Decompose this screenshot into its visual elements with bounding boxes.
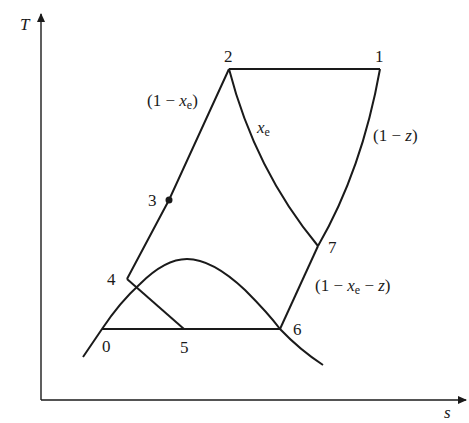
point-label-7: 7 (328, 238, 337, 257)
annotation-left-branch: (1 − xe) (147, 91, 198, 112)
annotation-middle-curve: xe (256, 118, 270, 139)
point-label-0: 0 (102, 337, 111, 356)
curve-2-7 (229, 69, 318, 246)
point-3-dot (166, 197, 173, 204)
t-axis-label: T (20, 15, 31, 34)
line-4-5 (127, 279, 184, 329)
point-label-5: 5 (180, 338, 189, 357)
point-label-3: 3 (148, 191, 157, 210)
point-label-2: 2 (224, 47, 233, 66)
point-label-6: 6 (293, 320, 302, 339)
line-7-6 (280, 246, 318, 329)
point-label-4: 4 (107, 270, 116, 289)
annotation-right-branch: (1 − z) (373, 126, 418, 145)
s-axis-label: s (444, 403, 451, 422)
ts-diagram: T s 2 1 3 4 0 5 6 7 (1 − xe) xe (1 − z) … (0, 0, 469, 423)
point-label-1: 1 (375, 47, 384, 66)
curve-1-7 (318, 69, 380, 246)
annotation-lower-right: (1 − xe − z) (315, 276, 391, 297)
